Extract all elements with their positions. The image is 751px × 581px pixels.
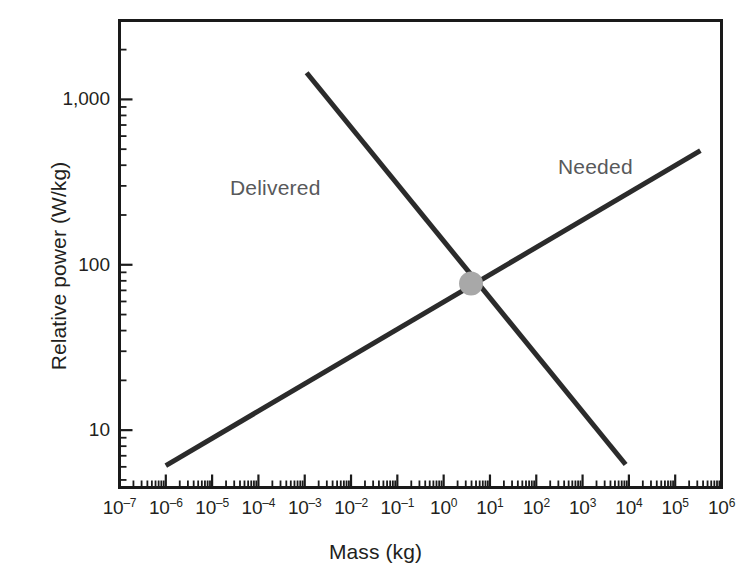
x-tick-label: 100 (430, 497, 457, 519)
x-tick-label: 101 (476, 497, 503, 519)
x-tick-label: 10–4 (242, 497, 276, 519)
series-label-needed: Needed (558, 155, 633, 179)
y-tick-label: 10 (89, 419, 110, 441)
x-tick-label: 102 (523, 497, 550, 519)
x-tick-label: 10–2 (334, 497, 368, 519)
x-tick-label: 10–6 (149, 497, 183, 519)
data-series-layer (166, 73, 701, 466)
x-tick-label: 10–3 (288, 497, 322, 519)
annotation-marker-layer (459, 272, 483, 296)
x-tick-label: 10–5 (195, 497, 229, 519)
plot-frame (120, 21, 722, 488)
x-tick-label: 10–1 (381, 497, 415, 519)
series-label-delivered: Delivered (230, 176, 321, 200)
intersection-marker (459, 272, 483, 296)
x-tick-label: 104 (615, 497, 642, 519)
x-axis-ticks (120, 475, 722, 488)
chart-figure: Mass (kg) Relative power (W/kg) 10–710–6… (0, 0, 751, 581)
x-tick-label: 106 (708, 497, 735, 519)
y-axis-title: Relative power (W/kg) (47, 86, 71, 446)
x-axis-title: Mass (kg) (0, 540, 751, 564)
x-tick-label: 105 (662, 497, 689, 519)
y-tick-label: 100 (78, 254, 110, 276)
plot-canvas (0, 0, 751, 581)
y-tick-label: 1,000 (62, 88, 110, 110)
y-axis-ticks (120, 21, 133, 480)
x-tick-label: 10–7 (103, 497, 137, 519)
series-line-delivered (307, 73, 626, 465)
x-tick-label: 103 (569, 497, 596, 519)
